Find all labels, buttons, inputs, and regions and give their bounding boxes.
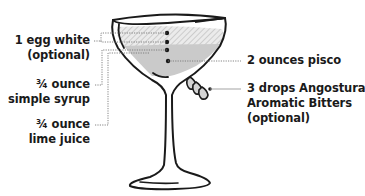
label-line: simple syrup: [8, 92, 90, 107]
label-egg-white: 1 egg white (optional): [15, 33, 90, 63]
label-bitters: 3 drops Angostura Aromatic Bitters (opti…: [247, 81, 365, 126]
label-line: ¾ ounce: [8, 77, 90, 92]
label-simple-syrup: ¾ ounce simple syrup: [8, 77, 90, 107]
label-line: 1 egg white: [15, 33, 90, 48]
label-line: (optional): [15, 48, 90, 63]
label-line: ¾ ounce: [29, 117, 90, 132]
label-pisco: 2 ounces pisco: [247, 53, 341, 68]
label-line: 2 ounces pisco: [247, 53, 341, 68]
label-line: (optional): [247, 111, 365, 126]
label-line: 3 drops Angostura: [247, 81, 365, 96]
label-line: Aromatic Bitters: [247, 96, 365, 111]
label-line: lime juice: [29, 132, 90, 147]
label-lime-juice: ¾ ounce lime juice: [29, 117, 90, 147]
bitters-drops-icon: [187, 77, 208, 99]
